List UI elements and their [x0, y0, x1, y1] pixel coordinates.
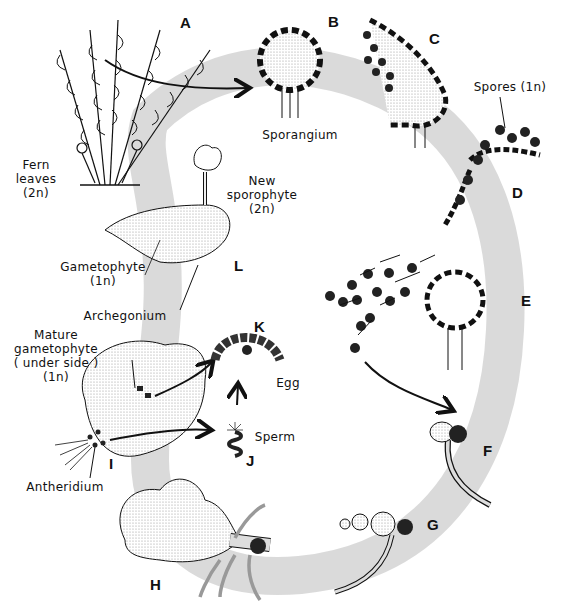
label-sperm: Sperm: [250, 430, 300, 444]
label-antheridium: Antheridium: [20, 480, 110, 494]
label-line: (1n): [58, 274, 148, 288]
arrow-spore-to-germination: [365, 362, 452, 410]
stage-label-l: L: [234, 257, 243, 274]
stage-label-k: K: [254, 318, 265, 335]
label-line: (2n): [222, 202, 302, 216]
stage-label-b: B: [328, 13, 339, 30]
label-line: ( under side ): [8, 356, 104, 370]
spore-dispersal-drawing: [325, 255, 483, 370]
stage-label-g: G: [427, 516, 439, 533]
label-new-sporophyte: New sporophyte (2n): [222, 174, 302, 216]
stage-label-e: E: [521, 292, 531, 309]
label-line: leaves: [12, 172, 60, 186]
label-line: gametophyte: [8, 342, 104, 356]
label-line: (2n): [12, 186, 60, 200]
stage-label-d: D: [512, 184, 523, 201]
label-gametophyte: Gametophyte (1n): [58, 260, 148, 288]
stage-label-j: J: [246, 452, 254, 469]
label-line: sporophyte: [222, 188, 302, 202]
stage-label-c: C: [429, 30, 440, 47]
label-line: Mature: [8, 328, 104, 342]
label-line: New: [222, 174, 302, 188]
label-mature-gametophyte: Mature gametophyte ( under side ) (1n): [8, 328, 104, 384]
sperm-drawing: [227, 422, 243, 456]
label-fern-leaves: Fern leaves (2n): [12, 158, 60, 200]
stage-label-f: F: [483, 442, 492, 459]
label-line: Gametophyte: [58, 260, 148, 274]
stage-label-h: H: [150, 576, 161, 593]
label-spores: Spores (1n): [460, 80, 560, 94]
label-line: (1n): [8, 370, 104, 384]
sporangium-drawing: [260, 30, 320, 118]
label-line: Fern: [12, 158, 60, 172]
stage-label-a: A: [180, 14, 191, 31]
stage-label-i: I: [109, 455, 113, 472]
arrow-sperm-to-egg: [237, 385, 238, 405]
label-egg: Egg: [268, 376, 308, 390]
label-archegonium: Archegonium: [80, 309, 170, 323]
archegonium-egg-drawing: [215, 338, 280, 361]
label-sporangium: Sporangium: [255, 128, 345, 142]
